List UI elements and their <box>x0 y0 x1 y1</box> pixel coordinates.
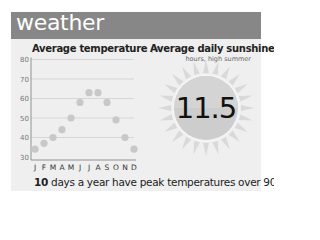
footer-text: days a year have peak temperatures over … <box>48 176 274 188</box>
footer-note: 10 days a year have peak temperatures ov… <box>34 176 274 188</box>
sun-ray <box>172 74 183 85</box>
sun-ray <box>194 141 200 154</box>
sun-ray <box>172 131 183 142</box>
sun-ray <box>182 66 191 79</box>
sun-ray <box>221 137 230 150</box>
sun-ray <box>194 62 200 75</box>
sun-ray <box>203 143 209 156</box>
sun-ray <box>229 131 240 142</box>
sun-ray <box>203 60 209 73</box>
sun-ray <box>212 62 218 75</box>
sun-ray <box>182 137 191 150</box>
footer-days-count: 10 <box>34 176 48 188</box>
sun-ray <box>229 74 240 85</box>
sunshine-value: 11.5 <box>166 91 246 125</box>
sun-ray <box>212 141 218 154</box>
sun-ray <box>221 66 230 79</box>
